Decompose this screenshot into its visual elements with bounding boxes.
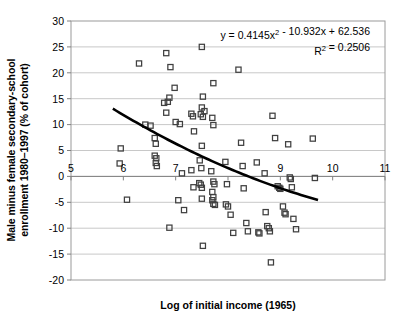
y-tick-label: 20 (52, 67, 64, 79)
y-tick-labels: -20-15-10-5051015202530 (49, 15, 64, 286)
y-axis-title-line1: Male minus female secondary-school (5, 58, 17, 241)
x-tick-label: 6 (120, 162, 126, 174)
x-tick-label: 7 (173, 162, 179, 174)
y-tick-label: -5 (55, 196, 64, 208)
y-tick-label: 15 (52, 93, 64, 105)
chart-container: 56791011 -20-15-10-5051015202530 y = 0.4… (0, 0, 399, 319)
y-axis-title-line2: enrollment 1980–1997 (% of cohort) (18, 63, 30, 236)
x-tick-label: 10 (327, 162, 339, 174)
y-tick-label: 30 (52, 15, 64, 27)
y-tick-label: 0 (58, 170, 64, 182)
scatter-chart: 56791011 -20-15-10-5051015202530 y = 0.4… (0, 0, 399, 319)
y-tick-label: 10 (52, 118, 64, 130)
y-tick-label: 25 (52, 41, 64, 53)
x-tick-label: 11 (380, 162, 391, 174)
y-tick-label: -20 (49, 274, 64, 286)
y-tick-label: 5 (58, 144, 64, 156)
x-tick-label: 5 (68, 162, 74, 174)
x-axis-title: Log of initial income (1965) (160, 299, 295, 311)
y-axis-ticks (67, 21, 71, 280)
y-tick-label: -15 (49, 248, 64, 260)
x-tick-label: 9 (277, 162, 283, 174)
y-tick-label: -10 (49, 222, 64, 234)
